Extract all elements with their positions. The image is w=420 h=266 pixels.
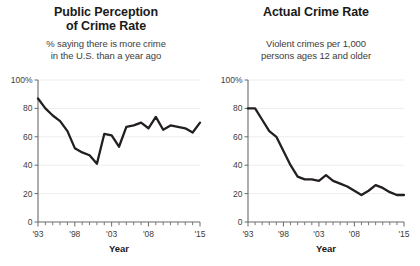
chart-panel-public-perception: Public Perception of Crime Rate % saying…: [0, 0, 212, 266]
y-tick-label: 20: [233, 189, 243, 199]
chart-title-left-line1: Public Perception: [0, 5, 212, 19]
plot-area-right: 020406080100%'93'98'03'08'15Year: [212, 74, 420, 266]
chart-subtitle-right: Violent crimes per 1,000 persons ages 12…: [212, 19, 420, 62]
x-axis-title: Year: [316, 243, 336, 254]
chart-title-left: Public Perception of Crime Rate: [0, 0, 212, 33]
y-tick-label: 40: [23, 160, 33, 170]
chart-title-right: Actual Crime Rate: [212, 0, 420, 19]
y-tick-label: 80: [23, 103, 33, 113]
plot-area-left: 020406080100%'93'98'03'08'15Year: [0, 74, 212, 266]
x-tick-label: '08: [143, 229, 154, 239]
x-tick-label: '98: [278, 229, 289, 239]
y-tick-label: 80: [233, 103, 243, 113]
chart-subtitle-left-line2: in the U.S. than a year ago: [0, 50, 212, 62]
chart-title-right-line1: Actual Crime Rate: [212, 5, 420, 19]
x-tick-label: '93: [32, 229, 43, 239]
y-tick-label: 100%: [221, 75, 243, 85]
chart-subtitle-left: % saying there is more crime in the U.S.…: [0, 33, 212, 62]
chart-title-left-line2: of Crime Rate: [0, 19, 212, 33]
y-tick-label: 0: [238, 217, 243, 227]
x-tick-label: '08: [349, 229, 360, 239]
y-tick-label: 40: [233, 160, 243, 170]
x-tick-label: '03: [106, 229, 117, 239]
x-tick-label: '93: [242, 229, 253, 239]
chart-subtitle-left-line1: % saying there is more crime: [0, 38, 212, 50]
x-tick-label: '03: [313, 229, 324, 239]
x-tick-label: '15: [194, 229, 205, 239]
x-tick-label: '98: [69, 229, 80, 239]
x-axis-title: Year: [109, 243, 129, 254]
x-tick-label: '15: [398, 229, 409, 239]
y-tick-label: 60: [233, 132, 243, 142]
chart-subtitle-right-line1: Violent crimes per 1,000: [212, 38, 420, 50]
chart-page: Public Perception of Crime Rate % saying…: [0, 0, 420, 266]
y-tick-label: 0: [28, 217, 33, 227]
chart-svg-right: 020406080100%'93'98'03'08'15Year: [212, 74, 420, 266]
chart-subtitle-right-line2: persons ages 12 and older: [212, 50, 420, 62]
y-tick-label: 60: [23, 132, 33, 142]
y-tick-label: 100%: [11, 75, 33, 85]
chart-svg-left: 020406080100%'93'98'03'08'15Year: [0, 74, 212, 266]
chart-panel-actual-crime-rate: Actual Crime Rate Violent crimes per 1,0…: [212, 0, 420, 266]
data-line-actual-crime-rate: [248, 108, 404, 195]
y-tick-label: 20: [23, 189, 33, 199]
